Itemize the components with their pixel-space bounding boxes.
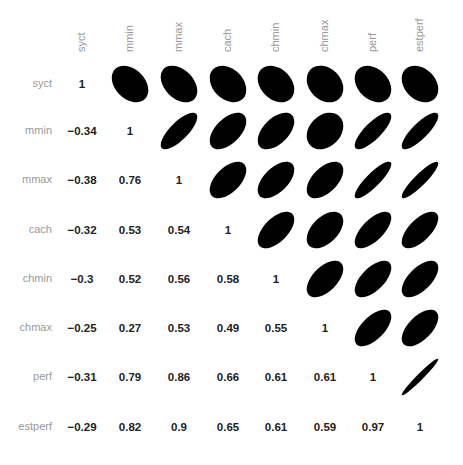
correlation-ellipse — [299, 105, 350, 156]
correlation-ellipse — [395, 254, 444, 303]
correlation-ellipse — [348, 254, 397, 303]
correlation-ellipse — [203, 106, 253, 156]
correlation-ellipse — [156, 108, 203, 155]
correlation-ellipse — [396, 206, 445, 255]
correlation-ellipse — [300, 254, 350, 304]
correlation-ellipse — [394, 58, 445, 109]
correlation-ellipse — [350, 108, 396, 154]
correlation-ellipse — [398, 158, 442, 202]
correlation-ellipse — [397, 108, 443, 154]
correlation-ellipse — [251, 205, 300, 254]
correlation-ellipse — [250, 58, 301, 109]
correlation-ellipse — [105, 59, 156, 110]
correlation-ellipse — [400, 357, 441, 398]
correlation-ellipse — [202, 58, 253, 109]
correlation-ellipse — [300, 205, 350, 255]
correlation-ellipse — [251, 155, 300, 204]
correlation-ellipse — [395, 303, 444, 352]
correlation-ellipse — [351, 158, 396, 203]
correlation-ellipse — [251, 106, 301, 156]
correlation-ellipse — [300, 155, 350, 205]
correlation-ellipse — [348, 303, 397, 352]
correlation-ellipse — [349, 206, 397, 254]
ellipse-layer — [0, 0, 463, 465]
correlation-ellipse — [203, 155, 253, 205]
correlation-ellipse — [347, 58, 398, 109]
correlation-ellipse — [299, 58, 350, 109]
correlation-ellipse — [154, 59, 205, 110]
correlation-matrix-chart: syctmminmmaxcachchminchmaxperfestperfsyc… — [0, 0, 463, 465]
